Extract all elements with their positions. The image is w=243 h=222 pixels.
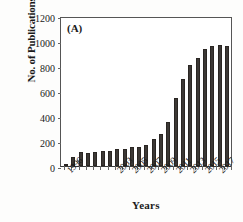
x-axis-tick-labels: 199620032005200720092011201320152017 <box>60 168 232 198</box>
y-tick-label-200: 200 <box>1 138 61 149</box>
bar <box>196 58 200 167</box>
bar <box>203 49 207 166</box>
bar <box>93 152 97 166</box>
plot-area: (A) 020040060080010001200 <box>60 17 232 167</box>
y-tick-mark-400 <box>58 118 62 119</box>
bar <box>188 65 192 166</box>
bar <box>218 45 222 166</box>
bar <box>210 46 214 166</box>
y-tick-label-600: 600 <box>1 88 61 99</box>
y-tick-mark-1200 <box>58 18 62 19</box>
y-tick-mark-200 <box>58 143 62 144</box>
y-tick-label-400: 400 <box>1 113 61 124</box>
bar <box>174 98 178 167</box>
bar <box>101 151 105 166</box>
y-tick-label-0: 0 <box>1 163 61 174</box>
bar <box>181 79 185 166</box>
y-tick-mark-600 <box>58 93 62 94</box>
y-tick-label-1000: 1000 <box>1 38 61 49</box>
y-tick-mark-800 <box>58 68 62 69</box>
y-tick-mark-1000 <box>58 43 62 44</box>
y-tick-label-1200: 1200 <box>1 13 61 24</box>
bar <box>86 153 90 167</box>
bar <box>108 151 112 166</box>
figure-panel-a: No. of Publications (A) 0200400600800100… <box>0 0 243 222</box>
bar-series <box>61 18 231 166</box>
bar <box>225 46 229 166</box>
x-axis-title: Years <box>60 199 232 211</box>
y-tick-label-800: 800 <box>1 63 61 74</box>
